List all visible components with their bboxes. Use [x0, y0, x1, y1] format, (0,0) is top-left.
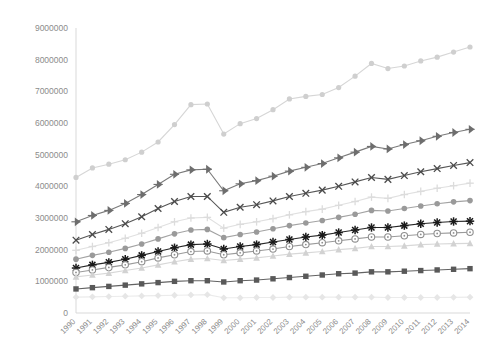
y-tick-label: 6000000 — [35, 118, 68, 128]
series-markers — [73, 44, 472, 180]
x-tick-label: 2012 — [420, 317, 439, 336]
x-tick-label: 1996 — [157, 317, 176, 336]
x-tick-label: 2001 — [239, 317, 258, 336]
x-tick-label: 1995 — [141, 317, 160, 336]
x-tick-label: 1990 — [58, 317, 77, 336]
data-series — [73, 44, 472, 180]
line-chart: 0100000020000003000000400000050000006000… — [0, 0, 496, 364]
y-tick-label: 8000000 — [35, 55, 68, 65]
y-tick-label: 3000000 — [35, 213, 68, 223]
y-tick-label: 1000000 — [35, 276, 68, 286]
x-tick-label: 1997 — [173, 317, 192, 336]
x-tick-label: 2014 — [452, 317, 471, 336]
x-tick-label: 2007 — [338, 317, 357, 336]
x-tick-label: 1994 — [124, 317, 143, 336]
x-tick-label: 2008 — [354, 317, 373, 336]
x-tick-label: 1993 — [108, 317, 127, 336]
data-series-layer — [71, 44, 474, 301]
x-tick-label: 2010 — [387, 317, 406, 336]
data-series — [73, 291, 474, 301]
series-markers — [71, 125, 474, 226]
x-tick-label: 1998 — [190, 317, 209, 336]
y-tick-label: 9000000 — [35, 23, 68, 33]
chart-canvas: 0100000020000003000000400000050000006000… — [0, 0, 496, 364]
x-tick-label: 2013 — [436, 317, 455, 336]
x-axis-tick-labels: 1990199119921993199419951996199719981999… — [58, 317, 471, 336]
y-tick-label: 0 — [63, 308, 68, 318]
y-axis-tick-labels: 0100000020000003000000400000050000006000… — [35, 23, 68, 318]
y-tick-label: 5000000 — [35, 150, 68, 160]
x-tick-label: 2005 — [305, 317, 324, 336]
x-tick-label: 2011 — [404, 317, 423, 336]
x-tick-label: 1999 — [206, 317, 225, 336]
data-series — [71, 125, 474, 226]
x-tick-label: 1992 — [91, 317, 110, 336]
x-tick-label: 2000 — [223, 317, 242, 336]
x-tick-label: 2009 — [370, 317, 389, 336]
x-tick-label: 2003 — [272, 317, 291, 336]
x-tick-label: 2002 — [255, 317, 274, 336]
y-tick-label: 7000000 — [35, 86, 68, 96]
y-tick-label: 2000000 — [35, 245, 68, 255]
y-tick-label: 4000000 — [35, 181, 68, 191]
x-tick-label: 2006 — [321, 317, 340, 336]
x-tick-label: 2004 — [288, 317, 307, 336]
x-tick-label: 1991 — [75, 317, 94, 336]
